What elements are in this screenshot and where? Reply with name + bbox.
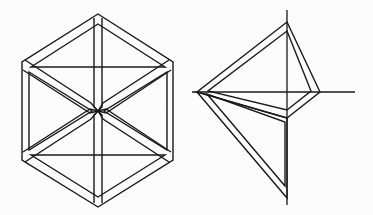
hexagon-spoke-bottom (94, 111, 102, 203)
hexagon-spoke-lower-left (23, 109, 98, 162)
hexagon-triangle-right (104, 72, 167, 150)
hexagon-triangle-bottom (31, 155, 165, 197)
hexagon-star-figure (22, 14, 173, 207)
hexagon-spoke-lower-right (98, 109, 171, 162)
kite-axes-figure (192, 10, 355, 205)
hexagon-spoke-upper-right (98, 60, 171, 113)
hexagon-triangle-top (31, 24, 165, 67)
kite-lower-inner-outline (207, 94, 285, 186)
geometric-figures-svg (0, 0, 373, 215)
hexagon-spoke-upper-left (23, 60, 98, 113)
figure-canvas (0, 0, 373, 215)
hexagon-spoke-top (94, 18, 102, 111)
kite-lower-outer-outline (197, 92, 287, 198)
